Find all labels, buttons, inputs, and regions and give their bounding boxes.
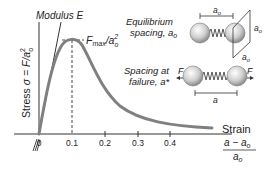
- force-arrow-left-icon: [176, 76, 183, 80]
- failure-inset: Spacing at failure, a* F F a: [124, 65, 254, 105]
- svg-text:ao: ao: [213, 5, 222, 16]
- force-arrow-right-icon: [247, 76, 254, 80]
- spring-icon: [209, 29, 227, 37]
- strain-label: Strain: [222, 123, 251, 135]
- fmax-label: Fmax/ao2: [86, 33, 118, 48]
- svg-text:a: a: [213, 95, 218, 105]
- svg-text:0.4: 0.4: [164, 138, 176, 148]
- spring-icon: [202, 72, 228, 80]
- svg-text:ao: ao: [254, 23, 263, 34]
- modulus-label: Modulus E: [36, 10, 84, 21]
- stress-strain-curve: [39, 39, 212, 134]
- svg-text:spacing, ao: spacing, ao: [130, 27, 177, 39]
- strain-fraction-numerator: a − ao: [224, 137, 251, 149]
- svg-text:0.1: 0.1: [66, 138, 78, 148]
- atom-icon: [183, 66, 203, 86]
- svg-text:Equilibrium: Equilibrium: [126, 16, 173, 27]
- svg-text:ao: ao: [242, 52, 251, 63]
- y-axis-label: Stress σ = F/ao2: [19, 48, 34, 118]
- svg-text:F: F: [178, 66, 184, 76]
- svg-text:0.3: 0.3: [132, 138, 144, 148]
- atom-icon: [227, 66, 247, 86]
- equilibrium-inset: Equilibrium spacing, ao ao ao ao: [126, 5, 263, 63]
- svg-text:0.2: 0.2: [99, 138, 111, 148]
- strain-fraction-denominator: ao: [233, 151, 243, 163]
- atom-icon: [190, 23, 210, 43]
- svg-text:Spacing at: Spacing at: [124, 65, 169, 76]
- svg-text:failure, a*: failure, a*: [129, 76, 169, 87]
- x-tick-labels: 0 0.1 0.2 0.3 0.4: [37, 138, 177, 148]
- svg-text:0: 0: [37, 138, 42, 148]
- stress-strain-diagram: Stress σ = F/ao2 Modulus E Fmax/ao2 0 0.…: [0, 0, 276, 174]
- svg-text:F: F: [247, 66, 253, 76]
